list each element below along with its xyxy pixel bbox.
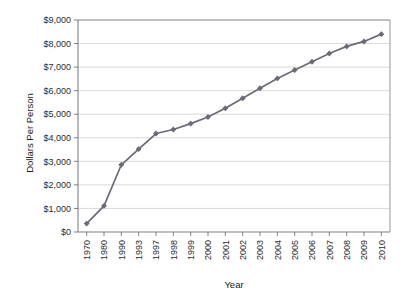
data-point-marker (327, 51, 331, 55)
y-axis-tick-label: $4,000 (43, 133, 71, 143)
data-point-marker (223, 106, 227, 110)
data-point-marker (119, 163, 123, 167)
data-point-marker (154, 131, 158, 135)
data-point-marker (171, 127, 175, 131)
x-axis-tick-label: 2000 (203, 240, 213, 260)
x-axis-tick-label: 2002 (238, 240, 248, 260)
data-point-marker (275, 76, 279, 80)
x-axis-tick-label: 2003 (255, 240, 265, 260)
x-axis-tick-label: 2006 (307, 240, 317, 260)
data-point-marker (345, 44, 349, 48)
data-point-marker (379, 32, 383, 36)
y-axis-tick-label: $0 (61, 227, 71, 237)
y-axis-tick-label: $5,000 (43, 109, 71, 119)
x-axis-tick-label: 1980 (99, 240, 109, 260)
data-point-marker (293, 68, 297, 72)
y-axis-tick-label: $9,000 (43, 15, 71, 25)
x-axis-tick-label: 2001 (221, 240, 231, 260)
data-point-marker (258, 86, 262, 90)
y-axis-tick-label: $8,000 (43, 39, 71, 49)
x-axis-tick-label: 2004 (273, 240, 283, 260)
y-axis-tick-label: $2,000 (43, 180, 71, 190)
data-point-marker (241, 96, 245, 100)
y-axis-tick-label: $1,000 (43, 204, 71, 214)
y-axis-title: Dollars Per Person (24, 93, 35, 173)
data-point-marker (189, 122, 193, 126)
y-axis-tick-label: $3,000 (43, 157, 71, 167)
data-point-marker (85, 222, 89, 226)
data-point-marker (102, 204, 106, 208)
data-point-marker (137, 147, 141, 151)
x-axis-tick-label: 2005 (290, 240, 300, 260)
x-axis-title: Year (224, 279, 243, 290)
x-axis-tick-label: 2010 (377, 240, 387, 260)
data-point-marker (362, 39, 366, 43)
x-axis-tick-label: 1993 (134, 240, 144, 260)
line-chart-figure: $0$1,000$2,000$3,000$4,000$5,000$6,000$7… (0, 0, 405, 301)
chart-canvas: $0$1,000$2,000$3,000$4,000$5,000$6,000$7… (0, 0, 405, 301)
x-axis-tick-label: 2009 (359, 240, 369, 260)
x-axis-tick-label: 1970 (82, 240, 92, 260)
x-axis-tick-label: 1999 (186, 240, 196, 260)
y-axis-tick-label: $6,000 (43, 86, 71, 96)
x-axis-tick-label: 1998 (169, 240, 179, 260)
x-axis-tick-label: 2007 (325, 240, 335, 260)
x-axis-tick-label: 2008 (342, 240, 352, 260)
data-point-marker (206, 115, 210, 119)
x-axis-tick-label: 1990 (117, 240, 127, 260)
data-point-marker (310, 60, 314, 64)
x-axis-tick-label: 1997 (151, 240, 161, 260)
y-axis-tick-label: $7,000 (43, 62, 71, 72)
